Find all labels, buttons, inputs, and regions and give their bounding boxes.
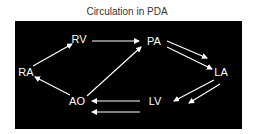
node-la: LA [214, 67, 227, 78]
node-pa: PA [147, 36, 161, 47]
node-ao: AO [69, 96, 85, 107]
arrow-ao-to-ra [35, 77, 70, 95]
arrow-ao-to-pa [87, 47, 141, 96]
flow-arrows [15, 21, 242, 129]
arrow-la-to-lv-1 [174, 80, 214, 101]
arrow-ra-to-rv [33, 44, 72, 66]
circulation-diagram: RA RV PA LA LV AO [15, 21, 242, 129]
node-rv: RV [71, 34, 86, 45]
diagram-title: Circulation in PDA [0, 6, 254, 17]
node-ra: RA [18, 67, 33, 78]
arrow-la-to-lv-2 [189, 84, 220, 103]
node-lv: LV [149, 96, 162, 107]
